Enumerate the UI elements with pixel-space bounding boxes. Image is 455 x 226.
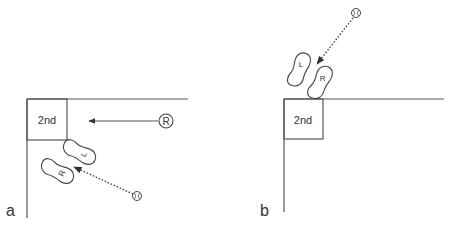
- baseball-icon: [133, 192, 142, 201]
- runner-label: R: [162, 116, 169, 127]
- second-base-label: 2nd: [294, 114, 312, 126]
- left-foot-icon: L: [286, 50, 313, 88]
- right-foot-label: R: [320, 74, 326, 83]
- left-foot-label: L: [299, 60, 304, 69]
- throw-path: [317, 18, 353, 64]
- panel-a: 2nd R L R a: [6, 99, 188, 219]
- second-base-label: 2nd: [38, 114, 56, 126]
- throw-path: [74, 167, 133, 194]
- panel-label: b: [260, 202, 269, 219]
- panel-label: a: [6, 202, 15, 219]
- diagram-canvas: 2nd R L R a 2nd L: [0, 0, 455, 226]
- right-foot-icon: R: [38, 157, 77, 186]
- left-foot-icon: L: [60, 138, 99, 167]
- right-foot-icon: R: [306, 63, 335, 102]
- baseball-icon: [352, 9, 361, 18]
- panel-b: 2nd L R b: [260, 9, 444, 220]
